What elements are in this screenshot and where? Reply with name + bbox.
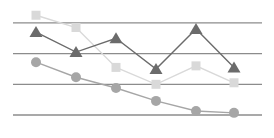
circle-marker-icon	[151, 96, 161, 106]
series-lines	[36, 15, 234, 113]
circle-marker-icon	[191, 106, 201, 116]
circle-marker-icon	[111, 83, 121, 93]
series-line-triangle	[36, 29, 234, 69]
circle-marker-icon	[229, 108, 239, 118]
square-marker-icon	[112, 63, 121, 72]
triangle-marker-icon	[70, 46, 83, 57]
circle-marker-icon	[71, 72, 81, 82]
circle-marker-icon	[31, 57, 41, 67]
triangle-marker-icon	[110, 32, 123, 43]
square-marker-icon	[192, 61, 201, 70]
line-chart	[0, 0, 274, 138]
square-marker-icon	[72, 23, 81, 32]
square-marker-icon	[32, 11, 41, 20]
series-markers	[30, 11, 241, 118]
triangle-marker-icon	[190, 23, 203, 34]
square-marker-icon	[230, 78, 239, 87]
gridlines	[13, 23, 262, 115]
triangle-marker-icon	[30, 26, 43, 37]
square-marker-icon	[152, 80, 161, 89]
